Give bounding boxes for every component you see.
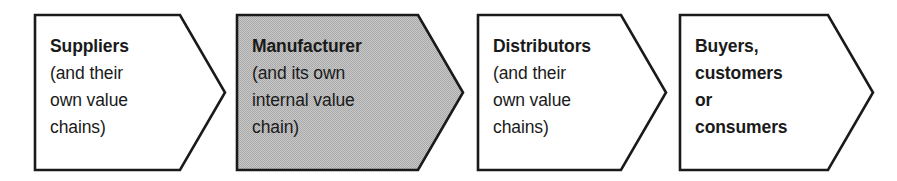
stage-subline-buyers-3: consumers [695,114,787,141]
stage-subline-manufacturer-2: internal value [252,87,362,114]
stage-text-distributors: Distributors(and theirown valuechains) [493,33,591,141]
stage-subline-manufacturer-3: chain) [252,114,362,141]
stage-header-buyers: Buyers, [695,33,787,60]
stage-subline-buyers-2: or [695,87,787,114]
stage-text-manufacturer: Manufacturer(and its owninternal valuech… [252,33,362,141]
stage-subline-manufacturer-1: (and its own [252,60,362,87]
stage-subline-buyers-1: customers [695,60,787,87]
stage-subline-suppliers-2: own value [50,87,129,114]
stage-header-suppliers: Suppliers [50,33,129,60]
stage-subline-suppliers-1: (and their [50,60,129,87]
stage-text-suppliers: Suppliers(and theirown valuechains) [50,33,129,141]
stage-header-manufacturer: Manufacturer [252,33,362,60]
stage-subline-distributors-3: chains) [493,114,591,141]
stage-subline-suppliers-3: chains) [50,114,129,141]
stage-header-distributors: Distributors [493,33,591,60]
stage-subline-distributors-1: (and their [493,60,591,87]
value-chain-diagram: Suppliers(and theirown valuechains)Manuf… [0,0,897,181]
stage-subline-distributors-2: own value [493,87,591,114]
stage-text-buyers: Buyers,customersorconsumers [695,33,787,141]
